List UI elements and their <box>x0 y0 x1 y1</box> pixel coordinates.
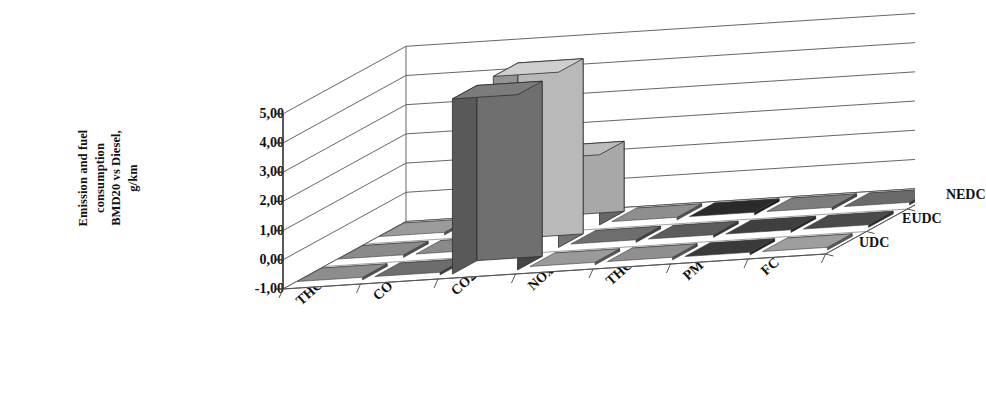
y-axis <box>276 114 283 289</box>
bar <box>452 81 542 274</box>
series-label-nedc: NEDC <box>946 187 986 203</box>
